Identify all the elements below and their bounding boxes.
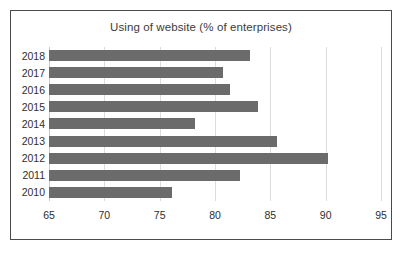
- y-axis-label-2016: 2016: [22, 84, 45, 96]
- bar-2016: [49, 84, 230, 95]
- x-axis-label-90: 90: [320, 209, 332, 221]
- bar-row: [49, 150, 381, 167]
- y-axis-label-2011: 2011: [22, 169, 45, 181]
- x-axis-labels: 65707580859095: [49, 209, 381, 225]
- gridline-95: [381, 47, 382, 201]
- chart-frame: Using of website (% of enterprises) 2018…: [10, 10, 392, 240]
- y-axis-label-2015: 2015: [22, 101, 45, 113]
- y-axis-label-2014: 2014: [22, 118, 45, 130]
- x-axis-label-95: 95: [375, 209, 387, 221]
- y-axis-label-2018: 2018: [22, 50, 45, 62]
- bar-2014: [49, 118, 195, 129]
- bar-row: [49, 115, 381, 132]
- x-axis-label-80: 80: [209, 209, 221, 221]
- y-axis-label-2013: 2013: [22, 135, 45, 147]
- y-axis-label-2010: 2010: [22, 186, 45, 198]
- y-axis-label-2017: 2017: [22, 67, 45, 79]
- y-axis-label-2012: 2012: [22, 152, 45, 164]
- x-axis-label-75: 75: [154, 209, 166, 221]
- y-axis-labels: 201820172016201520142013201220112010: [11, 47, 49, 201]
- bar-row: [49, 98, 381, 115]
- bar-2011: [49, 170, 240, 181]
- bar-2010: [49, 187, 172, 198]
- bar-2015: [49, 101, 258, 112]
- bar-series: [49, 47, 381, 201]
- bar-row: [49, 184, 381, 201]
- x-axis-label-70: 70: [98, 209, 110, 221]
- bar-2012: [49, 153, 328, 164]
- bar-row: [49, 167, 381, 184]
- bar-2013: [49, 136, 277, 147]
- chart-title: Using of website (% of enterprises): [11, 21, 391, 33]
- bar-row: [49, 47, 381, 64]
- x-axis-label-65: 65: [43, 209, 55, 221]
- bar-row: [49, 133, 381, 150]
- plot-area: [49, 47, 381, 201]
- bar-row: [49, 64, 381, 81]
- bar-row: [49, 81, 381, 98]
- bar-2017: [49, 67, 223, 78]
- x-axis-label-85: 85: [264, 209, 276, 221]
- bar-2018: [49, 50, 250, 61]
